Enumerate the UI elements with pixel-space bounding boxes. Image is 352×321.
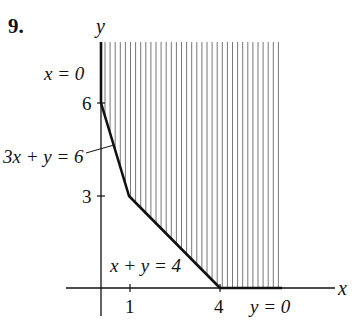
region-hatching — [105, 42, 278, 290]
y-tick-label-6: 6 — [82, 93, 92, 114]
label-y-eq-0: y = 0 — [248, 296, 291, 317]
label-3x-plus-y-eq-6: 3x + y = 6 — [2, 146, 84, 167]
problem-number: 9. — [8, 14, 24, 38]
y-tick-label-3: 3 — [82, 186, 92, 207]
diagram-canvas: 9. y x x = 0 6 3x + y = 6 3 x + y = 4 1 … — [0, 0, 352, 321]
leader-line-3x-y-6 — [86, 145, 114, 153]
x-tick-label-4: 4 — [214, 296, 224, 317]
feasible-region-graph: 9. y x x = 0 6 3x + y = 6 3 x + y = 4 1 … — [0, 0, 352, 321]
label-x-eq-0: x = 0 — [43, 63, 85, 84]
x-axis-label: x — [337, 277, 347, 299]
x-tick-label-1: 1 — [125, 296, 135, 317]
label-x-plus-y-eq-4: x + y = 4 — [109, 255, 182, 276]
y-axis-label: y — [94, 15, 105, 38]
